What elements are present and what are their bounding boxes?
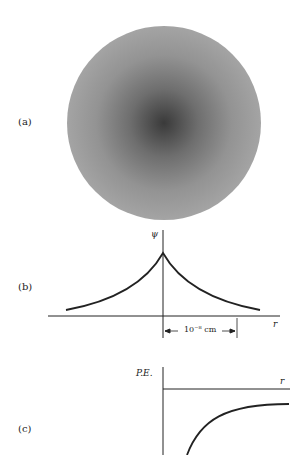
pe-axis-label: P.E. bbox=[136, 368, 153, 378]
electron-cloud bbox=[67, 26, 261, 220]
psi-axis-label: ψ bbox=[151, 229, 158, 239]
figure-canvas bbox=[0, 0, 302, 455]
panel-b-label: (b) bbox=[18, 281, 32, 292]
scale-label: 10⁻⁸ cm bbox=[182, 325, 218, 334]
potential-energy-plot bbox=[163, 367, 290, 455]
r-axis-label-b: r bbox=[273, 319, 277, 329]
wavefunction-plot bbox=[48, 230, 280, 338]
r-axis-label-c: r bbox=[280, 376, 284, 386]
panel-a-label: (a) bbox=[18, 116, 32, 127]
panel-c-label: (c) bbox=[18, 423, 31, 434]
